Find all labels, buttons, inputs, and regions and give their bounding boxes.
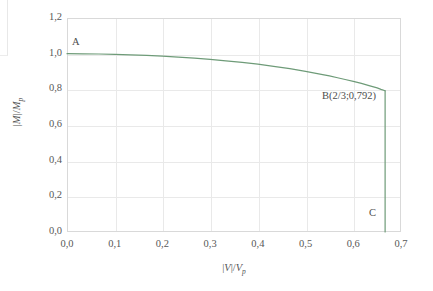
x-tick-label: 0,7 bbox=[384, 238, 418, 249]
chart-figure: A B(2/3;0,792) C 0,00,20,40,60,81,01,2 0… bbox=[0, 0, 433, 291]
annotation-point-c: C bbox=[369, 207, 376, 218]
x-tick-label: 0,1 bbox=[98, 238, 132, 249]
y-tick-label: 0,8 bbox=[34, 82, 62, 93]
x-tick-label: 0,6 bbox=[336, 238, 370, 249]
y-abs-bar-close: | bbox=[11, 113, 22, 115]
x-tick-label: 0,5 bbox=[289, 238, 323, 249]
y-tick-label: 0,4 bbox=[34, 154, 62, 165]
x-tick-label: 0,3 bbox=[193, 238, 227, 249]
left-edge-artifact bbox=[0, 0, 8, 56]
annotation-point-b: B(2/3;0,792) bbox=[322, 90, 376, 101]
y-slash: / bbox=[11, 110, 22, 113]
y-tick-label: 1,2 bbox=[34, 11, 62, 22]
y-subscript: p bbox=[16, 98, 25, 102]
y-tick-label: 0,0 bbox=[34, 225, 62, 236]
y-denominator: M bbox=[11, 102, 22, 111]
y-tick-label: 0,2 bbox=[34, 189, 62, 200]
y-tick-label: 0,6 bbox=[34, 118, 62, 129]
y-axis-title: |M|/Mp bbox=[11, 82, 25, 142]
x-subscript: p bbox=[242, 267, 246, 276]
x-tick-label: 0,4 bbox=[241, 238, 275, 249]
y-abs-bar-open: | bbox=[11, 124, 22, 126]
x-axis-title: |V|/Vp bbox=[184, 262, 284, 276]
y-numerator: M bbox=[11, 115, 22, 124]
data-curve-layer bbox=[67, 18, 401, 232]
x-tick-label: 0,2 bbox=[145, 238, 179, 249]
annotation-point-a: A bbox=[72, 36, 80, 47]
y-tick-label: 1,0 bbox=[34, 47, 62, 58]
x-tick-label: 0,0 bbox=[50, 238, 84, 249]
series-envelope-path bbox=[67, 54, 385, 91]
